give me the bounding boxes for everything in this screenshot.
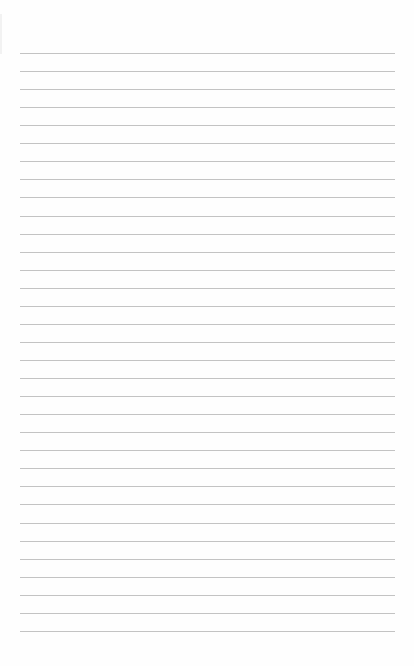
ruled-line bbox=[20, 595, 395, 596]
ruled-line bbox=[20, 179, 395, 180]
lined-paper-page bbox=[0, 0, 414, 666]
ruled-line bbox=[20, 161, 395, 162]
ruled-line bbox=[20, 523, 395, 524]
ruled-line bbox=[20, 270, 395, 271]
ruled-line bbox=[20, 197, 395, 198]
ruled-line bbox=[20, 342, 395, 343]
ruled-line bbox=[20, 541, 395, 542]
ruled-line bbox=[20, 53, 395, 54]
ruled-line bbox=[20, 234, 395, 235]
ruled-line bbox=[20, 107, 395, 108]
ruled-line bbox=[20, 486, 395, 487]
ruled-line bbox=[20, 396, 395, 397]
ruled-line bbox=[20, 631, 395, 632]
ruled-line bbox=[20, 306, 395, 307]
ruled-line bbox=[20, 71, 395, 72]
ruled-line bbox=[20, 324, 395, 325]
ruled-line bbox=[20, 504, 395, 505]
ruled-line bbox=[20, 89, 395, 90]
ruled-line bbox=[20, 125, 395, 126]
ruled-line bbox=[20, 577, 395, 578]
ruled-line bbox=[20, 559, 395, 560]
ruled-line bbox=[20, 613, 395, 614]
ruled-line bbox=[20, 468, 395, 469]
ruled-line bbox=[20, 143, 395, 144]
ruled-line bbox=[20, 252, 395, 253]
ruled-line bbox=[20, 450, 395, 451]
ruled-line bbox=[20, 216, 395, 217]
ruled-line bbox=[20, 432, 395, 433]
ruled-line bbox=[20, 288, 395, 289]
ruled-line bbox=[20, 378, 395, 379]
ruled-line bbox=[20, 414, 395, 415]
ruled-line bbox=[20, 360, 395, 361]
scan-edge-shadow bbox=[0, 14, 2, 54]
